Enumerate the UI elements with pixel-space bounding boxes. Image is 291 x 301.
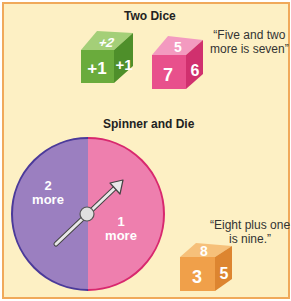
spinner-right-number: 1 — [117, 214, 124, 229]
green-die: +2 +1 +1 — [81, 31, 133, 83]
pink-top-label: 5 — [174, 39, 182, 55]
green-front-label: +1 — [87, 59, 106, 78]
spinner[interactable]: 2 more 1 more — [12, 138, 164, 290]
orange-side-label: 5 — [220, 265, 229, 282]
green-side-label: +1 — [115, 56, 132, 73]
orange-top-label: 8 — [200, 243, 208, 259]
spinner-left-word: more — [32, 192, 64, 207]
pink-side-label: 6 — [191, 62, 200, 79]
spinner-right-word: more — [105, 228, 137, 243]
orange-front-label: 3 — [192, 267, 202, 287]
spinner-left-number: 2 — [44, 178, 51, 193]
illustrations: +2 +1 +1 5 7 6 2 more 1 more 8 3 — [0, 0, 291, 301]
orange-die: 8 3 5 — [180, 243, 232, 291]
pink-front-label: 7 — [163, 65, 173, 85]
pink-die: 5 7 6 — [152, 36, 203, 89]
